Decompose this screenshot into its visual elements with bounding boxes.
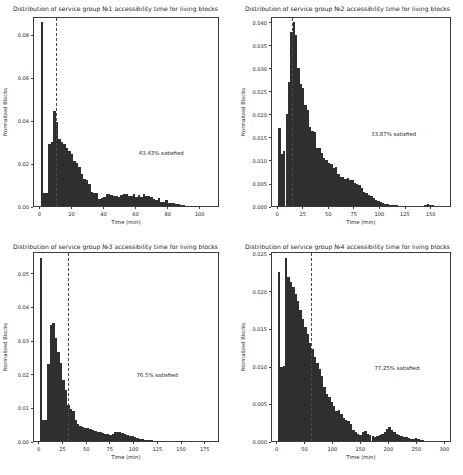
figure-canvas: Distribution of service group №1 accessi… <box>0 0 463 475</box>
y-tick-label: 0.020 <box>247 112 267 118</box>
x-tick-label: 0 <box>27 211 51 217</box>
x-tick-label: 0 <box>265 446 289 452</box>
x-tick-label: 125 <box>145 446 169 452</box>
x-tick-label: 25 <box>50 446 74 452</box>
x-tick-label: 150 <box>348 446 372 452</box>
x-tick-label: 75 <box>98 446 122 452</box>
y-tick-mark <box>269 184 271 185</box>
threshold-line-2 <box>292 18 293 206</box>
x-tick-mark <box>39 207 40 209</box>
y-tick-label: 0.01 <box>9 405 29 411</box>
y-tick-mark <box>269 291 271 292</box>
x-tick-mark <box>405 207 406 209</box>
x-tick-label: 25 <box>291 211 315 217</box>
y-tick-mark <box>31 164 33 165</box>
chart-title-3: Distribution of service group №3 accessi… <box>0 243 231 251</box>
y-tick-label: 0.005 <box>247 181 267 187</box>
x-tick-label: 100 <box>320 446 344 452</box>
satisfied-annotation-4: 77.25% satisfied <box>374 365 419 371</box>
x-tick-mark <box>38 442 39 444</box>
y-tick-label: 0.020 <box>247 289 267 295</box>
x-tick-mark <box>135 207 136 209</box>
x-tick-mark <box>332 442 333 444</box>
x-tick-mark <box>416 442 417 444</box>
y-tick-mark <box>269 442 271 443</box>
chart-title-4: Distribution of service group №4 accessi… <box>232 243 463 251</box>
y-axis-label-2: Normalized Blocks <box>240 17 246 207</box>
x-tick-label: 50 <box>74 446 98 452</box>
chart-panel-4: Distribution of service group №4 accessi… <box>232 238 463 475</box>
y-tick-mark <box>31 78 33 79</box>
y-tick-mark <box>31 408 33 409</box>
y-tick-label: 0.015 <box>247 326 267 332</box>
x-tick-label: 0 <box>265 211 289 217</box>
y-tick-label: 0.04 <box>9 304 29 310</box>
y-tick-label: 0.02 <box>9 161 29 167</box>
y-tick-mark <box>269 22 271 23</box>
x-tick-mark <box>360 442 361 444</box>
x-axis-label-2: Time (min) <box>271 219 451 225</box>
y-tick-label: 0.08 <box>9 32 29 38</box>
y-tick-label: 0.040 <box>247 20 267 26</box>
chart-title-2: Distribution of service group №2 accessi… <box>232 5 463 13</box>
satisfied-annotation-3: 76.5% satisfied <box>136 372 178 378</box>
y-tick-label: 0.03 <box>9 338 29 344</box>
y-tick-label: 0.000 <box>247 439 267 445</box>
x-tick-mark <box>379 207 380 209</box>
x-tick-label: 150 <box>419 211 443 217</box>
y-tick-mark <box>31 307 33 308</box>
plot-area-4 <box>271 252 451 442</box>
y-tick-mark <box>269 68 271 69</box>
x-tick-label: 40 <box>92 211 116 217</box>
y-tick-mark <box>269 329 271 330</box>
y-tick-label: 0.05 <box>9 271 29 277</box>
y-tick-label: 0.06 <box>9 75 29 81</box>
x-tick-label: 75 <box>342 211 366 217</box>
y-tick-label: 0.00 <box>9 204 29 210</box>
x-tick-mark <box>276 442 277 444</box>
y-tick-mark <box>269 367 271 368</box>
x-tick-mark <box>353 207 354 209</box>
x-tick-mark <box>109 442 110 444</box>
y-tick-label: 0.025 <box>247 89 267 95</box>
y-tick-label: 0.005 <box>247 401 267 407</box>
x-tick-label: 200 <box>376 446 400 452</box>
y-tick-label: 0.000 <box>247 204 267 210</box>
x-axis-label-3: Time (min) <box>33 454 219 460</box>
satisfied-annotation-1: 43.43% satisfied <box>139 150 184 156</box>
y-tick-label: 0.010 <box>247 364 267 370</box>
threshold-line-3 <box>68 253 69 441</box>
x-tick-mark <box>199 207 200 209</box>
y-tick-mark <box>269 45 271 46</box>
plot-area-1 <box>33 17 219 207</box>
x-tick-mark <box>302 207 303 209</box>
x-tick-mark <box>167 207 168 209</box>
y-tick-mark <box>269 160 271 161</box>
x-tick-mark <box>204 442 205 444</box>
y-tick-label: 0.00 <box>9 439 29 445</box>
chart-panel-1: Distribution of service group №1 accessi… <box>0 0 231 237</box>
chart-title-1: Distribution of service group №1 accessi… <box>0 5 231 13</box>
x-tick-mark <box>157 442 158 444</box>
x-tick-label: 50 <box>293 446 317 452</box>
y-tick-mark <box>31 35 33 36</box>
y-tick-mark <box>31 273 33 274</box>
x-tick-label: 50 <box>316 211 340 217</box>
y-tick-label: 0.04 <box>9 118 29 124</box>
histogram-bar <box>40 258 42 441</box>
y-tick-label: 0.025 <box>247 251 267 257</box>
chart-panel-2: Distribution of service group №2 accessi… <box>232 0 463 237</box>
y-tick-label: 0.035 <box>247 43 267 49</box>
y-tick-label: 0.010 <box>247 158 267 164</box>
x-tick-mark <box>328 207 329 209</box>
x-tick-mark <box>304 442 305 444</box>
x-tick-label: 80 <box>156 211 180 217</box>
x-tick-mark <box>133 442 134 444</box>
histogram-bar <box>422 440 424 441</box>
y-tick-mark <box>269 207 271 208</box>
x-tick-label: 150 <box>169 446 193 452</box>
chart-panel-3: Distribution of service group №3 accessi… <box>0 238 231 475</box>
y-tick-mark <box>31 374 33 375</box>
x-tick-label: 100 <box>188 211 212 217</box>
x-tick-label: 20 <box>59 211 83 217</box>
